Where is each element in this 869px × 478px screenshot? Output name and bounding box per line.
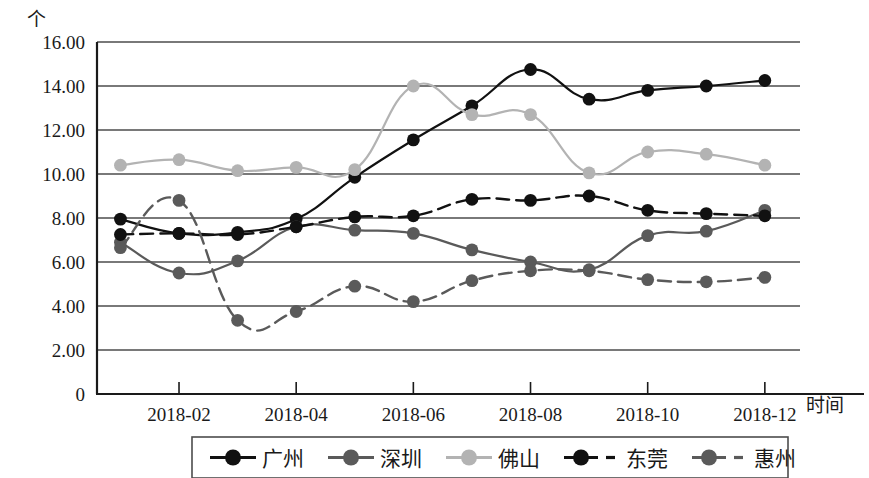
series-深圳 bbox=[114, 204, 771, 279]
y-tick-label: 10.00 bbox=[42, 164, 85, 185]
x-axis-label: 时间 bbox=[806, 395, 844, 416]
legend-label: 深圳 bbox=[380, 447, 422, 471]
data-point bbox=[407, 134, 420, 147]
y-tick-label: 16.00 bbox=[42, 32, 85, 53]
y-tick-label: 4.00 bbox=[52, 296, 85, 317]
data-point bbox=[231, 164, 244, 177]
data-point bbox=[583, 167, 596, 180]
data-point bbox=[641, 204, 654, 217]
y-tick-label: 14.00 bbox=[42, 76, 85, 97]
legend-marker bbox=[701, 450, 717, 466]
x-axis-ticks bbox=[179, 382, 765, 394]
data-point bbox=[466, 244, 479, 257]
data-point bbox=[758, 159, 771, 172]
data-point bbox=[583, 264, 596, 277]
data-point bbox=[407, 209, 420, 222]
data-point bbox=[641, 229, 654, 242]
data-point bbox=[348, 280, 361, 293]
y-tick-label: 12.00 bbox=[42, 120, 85, 141]
data-point bbox=[641, 273, 654, 286]
legend-label: 佛山 bbox=[498, 447, 540, 471]
data-point bbox=[348, 163, 361, 176]
series-东莞 bbox=[114, 190, 771, 241]
data-point bbox=[114, 228, 127, 241]
data-point bbox=[348, 224, 361, 237]
x-tick-label: 2018-04 bbox=[265, 404, 329, 425]
data-point bbox=[700, 275, 713, 288]
legend-marker bbox=[573, 450, 589, 466]
y-axis-tick-labels: 02.004.006.008.0010.0012.0014.0016.00 bbox=[42, 32, 85, 405]
x-tick-label: 2018-02 bbox=[147, 404, 210, 425]
data-point bbox=[407, 295, 420, 308]
data-point bbox=[407, 80, 420, 93]
data-point bbox=[641, 84, 654, 97]
data-point bbox=[524, 108, 537, 121]
x-tick-label: 2018-08 bbox=[499, 404, 562, 425]
legend-item-佛山[interactable]: 佛山 bbox=[446, 447, 540, 471]
data-point bbox=[700, 148, 713, 161]
data-point bbox=[466, 274, 479, 287]
gridlines-group bbox=[97, 42, 800, 394]
data-point bbox=[583, 93, 596, 106]
legend-item-东莞[interactable]: 东莞 bbox=[564, 447, 668, 471]
data-point bbox=[758, 271, 771, 284]
data-point bbox=[466, 193, 479, 206]
y-tick-label: 6.00 bbox=[52, 252, 85, 273]
data-point bbox=[173, 194, 186, 207]
data-point bbox=[173, 153, 186, 166]
y-tick-label: 2.00 bbox=[52, 340, 85, 361]
line-chart-figure: 02.004.006.008.0010.0012.0014.0016.00 20… bbox=[0, 0, 869, 478]
x-tick-label: 2018-06 bbox=[382, 404, 445, 425]
legend-label: 惠州 bbox=[754, 447, 796, 471]
data-series-layer bbox=[114, 63, 771, 331]
legend-marker bbox=[461, 450, 477, 466]
data-point bbox=[700, 80, 713, 93]
y-tick-label: 8.00 bbox=[52, 208, 85, 229]
legend-item-广州[interactable]: 广州 bbox=[210, 447, 304, 471]
data-point bbox=[231, 228, 244, 241]
data-point bbox=[524, 194, 537, 207]
legend-label: 东莞 bbox=[626, 447, 668, 471]
legend-marker bbox=[225, 450, 241, 466]
data-point bbox=[231, 255, 244, 268]
legend-label: 广州 bbox=[262, 447, 304, 471]
data-point bbox=[231, 314, 244, 327]
series-广州 bbox=[114, 63, 771, 240]
x-axis-tick-labels: 2018-022018-042018-062018-082018-102018-… bbox=[147, 404, 796, 425]
legend-item-深圳[interactable]: 深圳 bbox=[328, 447, 422, 471]
data-point bbox=[524, 63, 537, 76]
series-line bbox=[120, 196, 764, 235]
data-point bbox=[348, 211, 361, 224]
data-point bbox=[173, 267, 186, 280]
data-point bbox=[758, 74, 771, 87]
data-point bbox=[583, 190, 596, 203]
data-point bbox=[524, 264, 537, 277]
x-tick-label: 2018-10 bbox=[616, 404, 679, 425]
data-point bbox=[114, 213, 127, 226]
y-tick-label: 0 bbox=[76, 384, 86, 405]
data-point bbox=[114, 241, 127, 254]
legend-item-惠州[interactable]: 惠州 bbox=[692, 447, 796, 471]
data-point bbox=[290, 305, 303, 318]
data-point bbox=[641, 146, 654, 159]
data-point bbox=[700, 225, 713, 238]
data-point bbox=[290, 161, 303, 174]
legend-marker bbox=[343, 450, 359, 466]
x-tick-label: 2018-12 bbox=[733, 404, 796, 425]
data-point bbox=[407, 227, 420, 240]
data-point bbox=[466, 108, 479, 121]
chart-canvas: 02.004.006.008.0010.0012.0014.0016.00 20… bbox=[0, 0, 869, 478]
y-axis-unit-label: 个 bbox=[27, 9, 46, 30]
data-point bbox=[700, 207, 713, 220]
data-point bbox=[173, 227, 186, 240]
series-line bbox=[120, 210, 764, 274]
data-point bbox=[758, 209, 771, 222]
legend: 广州深圳佛山东莞惠州 bbox=[192, 437, 796, 478]
data-point bbox=[290, 220, 303, 233]
data-point bbox=[114, 159, 127, 172]
